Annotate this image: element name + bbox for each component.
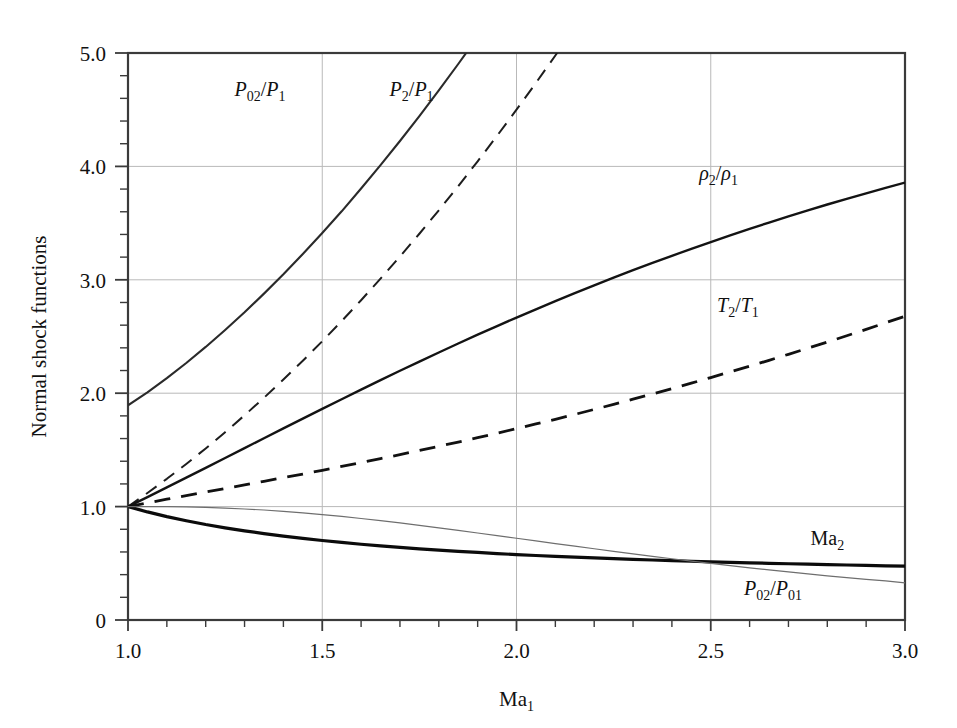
chart-canvas: 1.01.52.02.53.001.02.03.04.05.0 P02/P1P2… xyxy=(0,0,957,728)
x-axis-tick-label: 2.0 xyxy=(503,639,529,663)
y-axis-tick-label: 1.0 xyxy=(80,496,106,520)
x-axis-tick-label: 1.0 xyxy=(115,639,141,663)
figure-background xyxy=(0,0,957,728)
y-axis-tick-label: 0 xyxy=(96,609,107,633)
normal-shock-functions-figure: 1.01.52.02.53.001.02.03.04.05.0 P02/P1P2… xyxy=(0,0,957,728)
x-axis-tick-label: 2.5 xyxy=(698,639,724,663)
x-axis-tick-label: 1.5 xyxy=(309,639,335,663)
y-axis-title: Normal shock functions xyxy=(27,236,51,438)
y-axis-tick-label: 4.0 xyxy=(80,155,106,179)
x-axis-tick-label: 3.0 xyxy=(892,639,918,663)
y-axis-tick-label: 2.0 xyxy=(80,382,106,406)
y-axis-tick-label: 5.0 xyxy=(80,42,106,66)
y-axis-tick-label: 3.0 xyxy=(80,269,106,293)
